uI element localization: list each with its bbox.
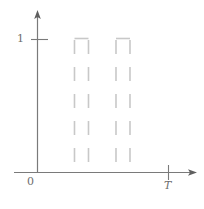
axes-group <box>14 10 197 180</box>
dashed-rectangle-2 <box>116 39 130 173</box>
plot-figure: 1 0 T <box>0 0 204 209</box>
y-axis-label-one: 1 <box>17 33 24 44</box>
origin-label: 0 <box>27 176 34 187</box>
x-axis-label-T: T <box>164 180 171 191</box>
dashed-rectangle-1 <box>75 39 89 173</box>
